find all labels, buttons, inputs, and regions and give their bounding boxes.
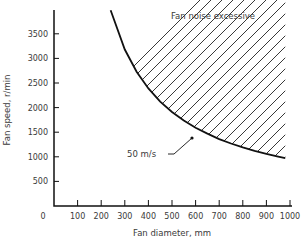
hatch-line xyxy=(213,0,308,240)
x-axis-label: Fan diameter, mm xyxy=(133,228,211,238)
hatch-line xyxy=(246,0,308,240)
y-tick-label: 3000 xyxy=(28,54,48,63)
x-tick-label: 1000 xyxy=(280,212,300,221)
hatch-line xyxy=(70,0,308,240)
y-tick-label: 2000 xyxy=(28,104,48,113)
hatch-line xyxy=(158,0,308,240)
region-label: Fan noise excessive xyxy=(171,11,255,21)
hatch-line xyxy=(136,0,308,240)
x-tick-label: 900 xyxy=(259,212,274,221)
x-tick-label: 100 xyxy=(70,212,85,221)
hatch-line xyxy=(125,0,308,240)
hatch-line xyxy=(147,0,308,240)
y-tick-label: 1500 xyxy=(28,128,48,137)
x-tick-label: 800 xyxy=(235,212,250,221)
hatch-line xyxy=(235,0,308,240)
x-tick-label: 300 xyxy=(117,212,132,221)
x-tick-label: 0 xyxy=(40,212,45,221)
curve-label: 50 m/s xyxy=(127,149,157,159)
y-tick-label: 500 xyxy=(33,177,48,186)
curve-label-leader xyxy=(168,138,192,154)
hatch-line xyxy=(290,0,308,240)
hatch-line xyxy=(103,0,308,240)
hatch-line xyxy=(114,0,308,240)
y-axis-label: Fan speed, r/min xyxy=(2,75,12,146)
axes xyxy=(54,10,292,206)
x-tick-label: 500 xyxy=(164,212,179,221)
hatch-line xyxy=(257,0,308,240)
hatch-line xyxy=(180,0,308,240)
x-tick-label: 400 xyxy=(141,212,156,221)
hatch-line xyxy=(279,0,308,240)
hatch-line xyxy=(59,0,299,240)
x-axis-ticks: 01002003004005006007008009001000 xyxy=(40,200,300,221)
y-tick-label: 3500 xyxy=(28,30,48,39)
x-tick-label: 600 xyxy=(188,212,203,221)
hatch-line xyxy=(301,0,308,240)
y-tick-label: 1000 xyxy=(28,153,48,162)
curve-label-pointer-dot xyxy=(190,136,193,139)
hatch-line xyxy=(202,0,308,240)
hatch-line xyxy=(48,0,288,240)
fan-speed-chart: 01002003004005006007008009001000 5001000… xyxy=(0,0,308,246)
x-tick-label: 700 xyxy=(212,212,227,221)
hatch-line xyxy=(26,0,266,240)
y-tick-label: 2500 xyxy=(28,79,48,88)
hatch-line xyxy=(37,0,277,240)
x-tick-label: 200 xyxy=(94,212,109,221)
